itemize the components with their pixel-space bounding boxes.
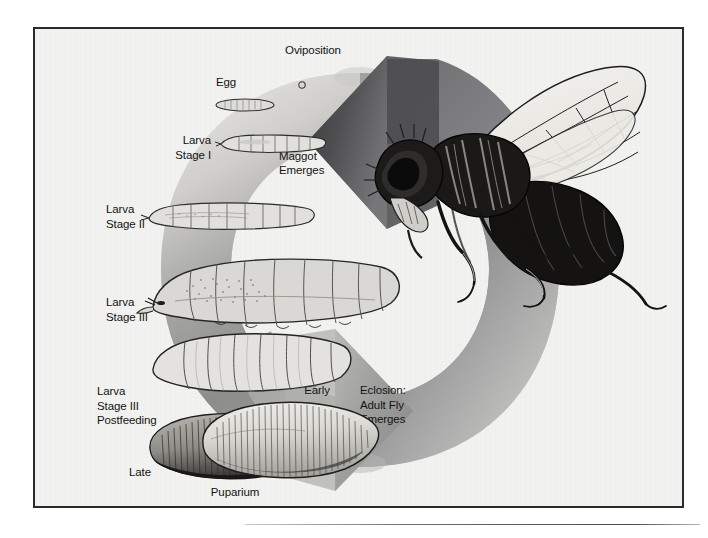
caption-text	[245, 527, 705, 538]
figure-frame: Oviposition Egg Eclosion: Maggot Emerges…	[33, 27, 684, 508]
egg-illustration	[213, 94, 277, 120]
caption-ghost-line	[250, 495, 700, 504]
page-root: Oviposition Egg Eclosion: Maggot Emerges…	[0, 0, 708, 538]
egg-dot-illustration	[296, 77, 308, 95]
label-egg: Egg	[201, 75, 251, 90]
adult-fly-illustration	[360, 52, 670, 316]
larva-stage-3-postfeeding-illustration	[141, 329, 359, 403]
larva-stage-1-illustration	[215, 129, 331, 161]
label-oviposition: Oviposition	[253, 43, 373, 58]
puparium-early-illustration	[195, 399, 385, 485]
label-larva-stage-1: Larva Stage I	[115, 133, 211, 162]
larva-stage-2-illustration	[139, 197, 321, 239]
fly-head	[364, 124, 443, 258]
caption-rule	[245, 524, 700, 525]
